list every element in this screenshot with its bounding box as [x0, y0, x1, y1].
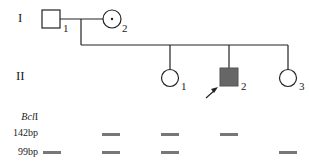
proband-arrow-icon [206, 87, 218, 98]
band-size-label-142: 142bp [0, 127, 38, 138]
generation-label-II: II [16, 68, 25, 84]
individual-number: 2 [241, 80, 247, 92]
gel-band [279, 151, 297, 154]
pedigree-lines [0, 0, 309, 165]
gel-band [43, 151, 61, 154]
gel-band [220, 133, 238, 136]
individual-number: 3 [299, 80, 305, 92]
generation-label-I: I [18, 10, 22, 26]
individual-II-1 [162, 70, 179, 87]
individual-number: 1 [181, 80, 187, 92]
individual-number: 1 [63, 22, 69, 34]
band-size-label-99: 99bp [0, 146, 38, 157]
carrier-dot-icon [111, 18, 113, 20]
individual-II-2 [220, 68, 238, 86]
individual-number: 2 [122, 22, 128, 34]
individual-II-3 [280, 70, 297, 87]
gel-band [102, 151, 120, 154]
gel-band [102, 133, 120, 136]
gel-band [161, 133, 179, 136]
individual-I-1 [42, 10, 60, 28]
gel-band [161, 151, 179, 154]
enzyme-label: BclI [0, 111, 38, 122]
